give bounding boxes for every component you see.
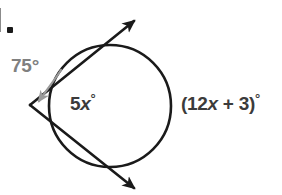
- near-arc-degree-symbol: °: [91, 91, 96, 106]
- near-arc-coefficient: 5: [70, 93, 80, 114]
- far-arc-degree-symbol: °: [255, 91, 260, 106]
- tangent-line-lower: [30, 105, 134, 188]
- circle-shape: [49, 45, 171, 167]
- geometry-figure: 75° 5x° (12x + 3)°: [0, 0, 282, 195]
- far-arc-coefficient: 12: [187, 93, 208, 114]
- exterior-angle-label: 75°: [11, 56, 39, 75]
- far-arc-label: (12x + 3)°: [181, 94, 260, 113]
- near-arc-variable: x: [80, 93, 90, 114]
- far-arc-variable: x: [208, 93, 218, 114]
- near-arc-label: 5x°: [70, 94, 95, 113]
- far-arc-operator: +: [218, 93, 239, 114]
- far-arc-constant: 3: [239, 93, 249, 114]
